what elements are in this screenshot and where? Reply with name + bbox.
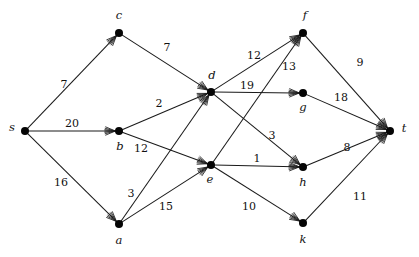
- node-label-k: k: [300, 234, 307, 246]
- node-e: [207, 161, 215, 169]
- graph-canvas: [0, 0, 419, 257]
- edge-weight-b-e: 12: [134, 143, 148, 154]
- graph-figure: 7201672123151219313110918811scbadefghkt: [0, 0, 419, 257]
- edge-weight-g-t: 18: [334, 92, 348, 103]
- edge-weight-f-t: 9: [357, 57, 364, 68]
- node-label-b: b: [116, 141, 123, 153]
- edge-weight-h-t: 8: [344, 142, 351, 153]
- node-label-e: e: [207, 174, 214, 186]
- node-h: [299, 163, 307, 171]
- arrowhead-s-b: [104, 127, 115, 136]
- edges-layer: [27, 35, 387, 222]
- edge-weight-d-f: 12: [247, 50, 261, 61]
- node-s: [21, 127, 29, 135]
- edge-weight-e-f: 13: [282, 61, 296, 72]
- arrowhead-c-d: [197, 81, 208, 90]
- edge-weight-b-d: 2: [156, 98, 163, 109]
- node-t: [386, 127, 394, 135]
- edge-weight-a-d: 3: [128, 188, 135, 199]
- edge-s-a: [27, 133, 112, 218]
- node-c: [115, 29, 123, 37]
- edge-e-h: [214, 165, 294, 167]
- arrowhead-e-k: [289, 212, 300, 221]
- edge-weight-e-k: 10: [242, 201, 256, 212]
- node-label-h: h: [299, 177, 306, 189]
- node-g: [299, 89, 307, 97]
- edge-weight-k-t: 11: [353, 191, 367, 202]
- node-label-g: g: [299, 102, 306, 114]
- edge-weight-s-a: 16: [54, 177, 68, 188]
- node-a: [115, 220, 123, 228]
- node-f: [299, 29, 307, 37]
- edge-weight-s-c: 7: [61, 79, 68, 90]
- node-label-a: a: [116, 235, 123, 247]
- edge-s-c: [27, 39, 113, 128]
- edge-d-g: [214, 92, 294, 93]
- edge-weight-d-g: 19: [240, 80, 254, 91]
- edge-weight-a-e: 15: [159, 201, 173, 212]
- arrowhead-b-e: [197, 156, 208, 164]
- node-b: [115, 127, 123, 135]
- edge-b-d: [122, 95, 203, 129]
- arrowhead-d-g: [288, 89, 299, 98]
- edge-weight-d-h: 3: [269, 130, 276, 141]
- node-label-s: s: [9, 122, 15, 134]
- edge-weight-e-h: 1: [254, 153, 261, 164]
- node-k: [299, 219, 307, 227]
- node-label-d: d: [208, 70, 215, 82]
- node-d: [207, 88, 215, 96]
- node-label-t: t: [402, 123, 407, 135]
- edge-weight-s-b: 20: [65, 118, 79, 129]
- node-label-c: c: [116, 10, 122, 22]
- node-label-f: f: [303, 10, 307, 22]
- edge-weight-c-d: 7: [164, 42, 171, 53]
